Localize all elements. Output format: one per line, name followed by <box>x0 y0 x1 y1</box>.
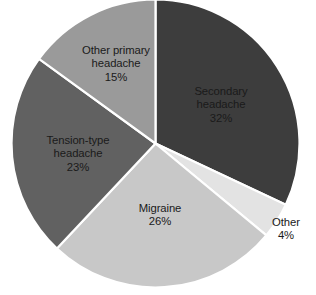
slice-value: 23% <box>26 161 130 174</box>
slice-label-line2: headache <box>26 147 130 160</box>
slice-label-line2: headache <box>175 98 267 111</box>
slice-value: 32% <box>175 112 267 125</box>
slice-value: 4% <box>262 229 310 242</box>
slice-label-line1: Secondary <box>175 85 267 98</box>
slice-value: 15% <box>60 71 172 84</box>
slice-value: 26% <box>118 215 202 228</box>
slice-label-line1: Tension-type <box>26 134 130 147</box>
slice-label-tension-type-headache: Tension-type headache 23% <box>26 134 130 174</box>
slice-label-secondary-headache: Secondary headache 32% <box>175 85 267 125</box>
slice-label-line1: Migraine <box>118 202 202 215</box>
slice-label-line2: headache <box>60 57 172 70</box>
slice-label-line1: Other <box>262 216 310 229</box>
slice-label-other-primary-headache: Other primary headache 15% <box>60 44 172 84</box>
slice-label-migraine: Migraine 26% <box>118 202 202 229</box>
slice-label-line1: Other primary <box>60 44 172 57</box>
slice-label-other: Other 4% <box>262 216 310 243</box>
pie-chart: Secondary headache 32% Other primary hea… <box>0 0 316 295</box>
